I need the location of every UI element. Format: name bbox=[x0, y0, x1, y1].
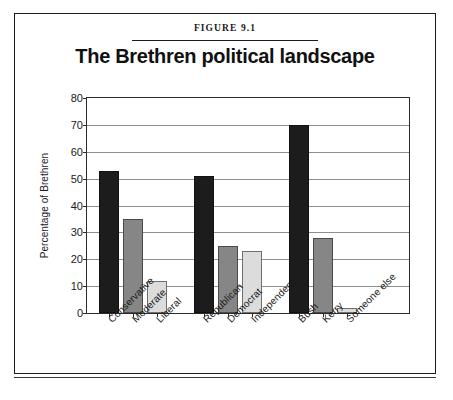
bar-kerry[interactable] bbox=[313, 238, 333, 313]
y-tick-label: 60 bbox=[71, 146, 83, 158]
y-tick-mark bbox=[83, 125, 87, 126]
figure-number: FIGURE 9.1 bbox=[15, 23, 435, 33]
y-tick-label: 0 bbox=[77, 307, 83, 319]
y-tick-mark bbox=[83, 206, 87, 207]
y-tick-mark bbox=[83, 152, 87, 153]
chart-plot-area: 01020304050607080 bbox=[86, 97, 410, 314]
y-tick-label: 20 bbox=[71, 253, 83, 265]
y-tick-label: 30 bbox=[71, 226, 83, 238]
y-tick-mark bbox=[83, 259, 87, 260]
y-tick-label: 50 bbox=[71, 173, 83, 185]
figure-bottom-rule bbox=[14, 377, 436, 378]
bar-conservative[interactable] bbox=[99, 171, 119, 313]
bar-republican[interactable] bbox=[194, 176, 214, 313]
y-tick-mark bbox=[83, 98, 87, 99]
y-tick-label: 80 bbox=[71, 92, 83, 104]
figure-frame: FIGURE 9.1 The Brethren political landsc… bbox=[14, 13, 436, 374]
y-tick-label: 40 bbox=[71, 200, 83, 212]
y-axis-label: Percentage of Brethren bbox=[39, 97, 53, 314]
gridline bbox=[87, 206, 409, 207]
y-tick-mark bbox=[83, 313, 87, 314]
y-tick-label: 10 bbox=[71, 280, 83, 292]
gridline bbox=[87, 152, 409, 153]
y-tick-mark bbox=[83, 286, 87, 287]
figure-title: The Brethren political landscape bbox=[15, 45, 435, 68]
gridline bbox=[87, 125, 409, 126]
y-tick-label: 70 bbox=[71, 119, 83, 131]
y-tick-mark bbox=[83, 179, 87, 180]
figure-divider-rule bbox=[132, 40, 318, 41]
y-tick-mark bbox=[83, 232, 87, 233]
gridline bbox=[87, 179, 409, 180]
